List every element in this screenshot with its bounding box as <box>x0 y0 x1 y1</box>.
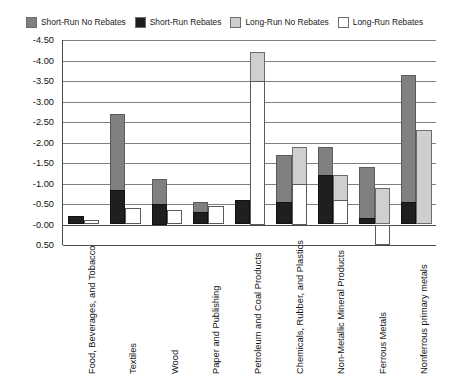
x-axis-category-label-text: Nonferrous primary metals <box>419 264 429 374</box>
plot-area <box>62 40 436 245</box>
x-axis-category-labels: Food, Beverages, and TobaccoTextilesWood… <box>62 248 436 378</box>
bar-group <box>271 40 313 245</box>
bar-short-run-rebates <box>235 200 250 225</box>
legend-swatch-icon <box>135 17 146 28</box>
bar-groups <box>63 40 436 245</box>
x-axis-category-label: Petroleum and Coal Products <box>253 253 263 374</box>
x-axis-category-label: Chemicals, Rubber, and Plastics <box>295 240 305 374</box>
y-axis-tick-label: -1.00 <box>33 179 54 188</box>
gridline <box>63 245 436 246</box>
bar-group <box>63 40 105 245</box>
legend-item-long-run-no-rebates: Long-Run No Rebates <box>230 17 328 28</box>
legend-label: Long-Run No Rebates <box>245 17 328 27</box>
x-axis-category-label: Nonferrous primary metals <box>419 264 429 374</box>
bar-group <box>395 40 437 245</box>
y-axis-tick-label: -2.50 <box>33 118 54 127</box>
bar-long-run-rebates <box>167 210 182 224</box>
x-axis-category-label: Food, Beverages, and Tobacco <box>87 245 97 374</box>
legend-item-short-run-no-rebates: Short-Run No Rebates <box>26 17 126 28</box>
bar-long-run-no-rebates <box>375 188 390 225</box>
chart-legend: Short-Run No Rebates Short-Run Rebates L… <box>26 14 426 30</box>
chart-figure: Short-Run No Rebates Short-Run Rebates L… <box>0 0 451 380</box>
bar-long-run-rebates <box>125 208 140 224</box>
y-axis-tick-label: -0.00 <box>33 220 54 229</box>
bar-short-run-rebates <box>110 190 125 225</box>
bar-long-run-rebates <box>250 81 265 225</box>
legend-label: Long-Run Rebates <box>353 17 423 27</box>
legend-swatch-icon <box>338 17 349 28</box>
bar-long-run-rebates <box>375 225 390 246</box>
legend-item-long-run-rebates: Long-Run Rebates <box>338 17 423 28</box>
bar-long-run-rebates <box>84 220 99 224</box>
bar-short-run-rebates <box>193 212 208 224</box>
x-axis-category-label-text: Non-Metallic Mineral Products <box>336 250 346 374</box>
x-axis-category-label: Textiles <box>128 343 138 374</box>
x-axis-category-label: Wood <box>170 350 180 374</box>
legend-swatch-icon <box>26 17 37 28</box>
x-axis-category-label-text: Petroleum and Coal Products <box>253 253 263 374</box>
bar-short-run-rebates <box>68 216 83 224</box>
x-axis-category-label-text: Wood <box>170 350 180 374</box>
x-axis-category-label: Non-Metallic Mineral Products <box>336 250 346 374</box>
bar-short-run-rebates <box>359 218 374 224</box>
x-axis-category-label-text: Paper and Publishing <box>211 286 221 374</box>
legend-label: Short-Run Rebates <box>150 17 222 27</box>
x-axis-category-label: Ferrous Metals <box>378 312 388 374</box>
bar-long-run-rebates <box>292 184 307 225</box>
bar-short-run-rebates <box>152 204 167 225</box>
bar-group <box>188 40 230 245</box>
legend-swatch-icon <box>230 17 241 28</box>
y-axis-tick-label: 0.50 <box>36 241 54 250</box>
bar-long-run-no-rebates <box>416 130 431 224</box>
bar-short-run-rebates <box>318 175 333 224</box>
bar-short-run-rebates <box>276 202 291 225</box>
x-axis-category-label: Paper and Publishing <box>211 286 221 374</box>
bar-group <box>105 40 147 245</box>
bar-long-run-rebates <box>333 200 348 225</box>
bar-group <box>229 40 271 245</box>
y-axis-tick-label: -4.00 <box>33 56 54 65</box>
y-axis-tick-label: -4.50 <box>33 36 54 45</box>
x-axis-category-label-text: Ferrous Metals <box>378 312 388 374</box>
x-axis-category-label-text: Textiles <box>128 343 138 374</box>
bar-short-run-no-rebates <box>359 167 374 224</box>
x-axis-category-label-text: Chemicals, Rubber, and Plastics <box>295 240 305 374</box>
y-axis-tick-label: -1.50 <box>33 159 54 168</box>
bar-group <box>312 40 354 245</box>
bar-group <box>354 40 396 245</box>
y-axis-tick-labels: -4.50-4.00-3.50-3.00-2.50-2.00-1.50-1.00… <box>0 40 58 245</box>
x-axis-category-label-text: Food, Beverages, and Tobacco <box>87 245 97 374</box>
bar-long-run-rebates <box>208 206 223 224</box>
bar-short-run-rebates <box>401 202 416 225</box>
legend-item-short-run-rebates: Short-Run Rebates <box>135 17 222 28</box>
y-axis-tick-label: -3.00 <box>33 97 54 106</box>
legend-label: Short-Run No Rebates <box>41 17 126 27</box>
y-axis-tick-label: -0.50 <box>33 200 54 209</box>
bar-group <box>146 40 188 245</box>
y-axis-tick-label: -3.50 <box>33 77 54 86</box>
y-axis-tick-label: -2.00 <box>33 138 54 147</box>
